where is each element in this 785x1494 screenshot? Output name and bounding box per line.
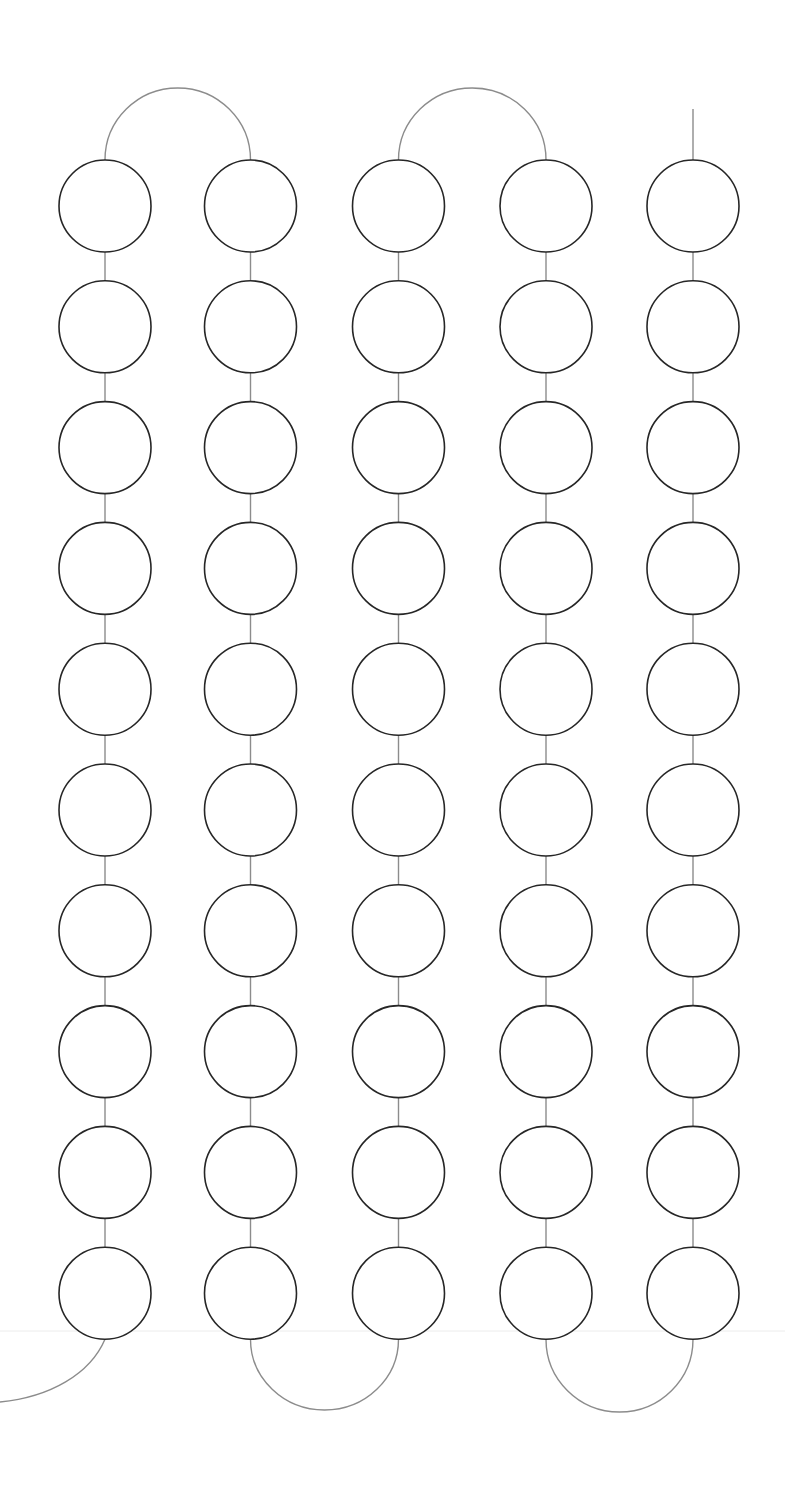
circle-node xyxy=(353,885,445,977)
circle-node xyxy=(500,402,592,494)
circle-node xyxy=(647,1247,739,1339)
circle-node xyxy=(59,1247,151,1339)
circle-node xyxy=(500,1247,592,1339)
circle-node xyxy=(353,1126,445,1218)
circle-node xyxy=(59,522,151,614)
circle-node xyxy=(500,522,592,614)
top-arc-link xyxy=(399,88,547,160)
circle-node xyxy=(59,885,151,977)
circle-node xyxy=(205,402,297,494)
bottom-arc-link xyxy=(251,1339,399,1410)
circle-node xyxy=(205,1126,297,1218)
circle-node xyxy=(205,281,297,373)
circle-node xyxy=(500,764,592,856)
circle-node xyxy=(59,402,151,494)
circle-node xyxy=(59,1126,151,1218)
circle-node xyxy=(647,764,739,856)
circle-node xyxy=(205,885,297,977)
circle-node xyxy=(59,643,151,735)
circle-node xyxy=(353,764,445,856)
circle-node xyxy=(500,1126,592,1218)
circle-node xyxy=(647,885,739,977)
circle-node xyxy=(353,281,445,373)
circle-node xyxy=(500,281,592,373)
circle-node xyxy=(647,1126,739,1218)
circle-node xyxy=(647,160,739,252)
circle-node xyxy=(353,402,445,494)
circle-node xyxy=(205,1247,297,1339)
circle-node xyxy=(353,643,445,735)
circle-node xyxy=(353,160,445,252)
circle-node xyxy=(205,522,297,614)
top-arc-link xyxy=(105,88,251,160)
circle-node xyxy=(205,160,297,252)
circle-node xyxy=(59,281,151,373)
circle-node xyxy=(59,160,151,252)
circle-node xyxy=(353,1006,445,1098)
circle-node xyxy=(205,643,297,735)
circle-node xyxy=(353,1247,445,1339)
circle-node xyxy=(59,764,151,856)
circle-node xyxy=(205,1006,297,1098)
circle-node xyxy=(500,1006,592,1098)
circle-node xyxy=(647,281,739,373)
circle-node xyxy=(205,764,297,856)
circle-node xyxy=(353,522,445,614)
circle-node xyxy=(647,402,739,494)
serpentine-diagram xyxy=(0,0,785,1494)
circle-node xyxy=(647,1006,739,1098)
circle-node xyxy=(647,522,739,614)
bottom-lead-curve xyxy=(0,1339,105,1402)
circle-node xyxy=(500,643,592,735)
bottom-arc-link xyxy=(546,1339,693,1412)
circle-node xyxy=(500,885,592,977)
circle-node xyxy=(647,643,739,735)
circle-node xyxy=(500,160,592,252)
circle-node xyxy=(59,1006,151,1098)
